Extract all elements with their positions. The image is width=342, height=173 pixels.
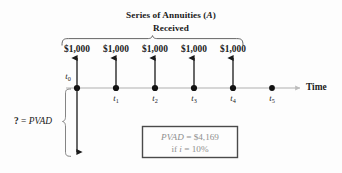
time-axis-label: Time [306, 83, 327, 92]
figure-title-suffix: ) [213, 10, 216, 20]
result-box-line-2: if i = 10% [142, 145, 238, 154]
pvad-brace [63, 89, 72, 156]
period-label-t2-sub: 2 [155, 97, 158, 104]
period-label-t3-sub: 3 [194, 97, 197, 104]
annuity-due-timeline-figure: Series of Annuities (A) Received $1,000 … [0, 0, 342, 173]
period-label-t3: t3 [191, 94, 196, 103]
cash-flow-label-t3: $1,000 [181, 45, 207, 54]
result-box-line-1: PVAD = $4,169 [142, 133, 238, 142]
period-label-t0: t0 [65, 72, 70, 81]
cash-flow-label-t0: $1,000 [64, 45, 90, 54]
cash-flow-label-t4: $1,000 [220, 45, 246, 54]
cash-flow-label-t1: $1,000 [103, 45, 129, 54]
period-label-t0-sub: 0 [68, 75, 71, 82]
period-label-t1: t1 [113, 94, 118, 103]
figure-title-line-1: Series of Annuities (A) [0, 11, 342, 20]
period-label-t5-sub: 5 [272, 97, 275, 104]
pvad-equals-sign: = [21, 116, 26, 126]
result-box-if-prefix: if [171, 144, 177, 154]
result-box-rate-value: 10% [192, 144, 209, 154]
pvad-term: PVAD [29, 116, 52, 126]
period-label-t4-sub: 4 [233, 97, 236, 104]
period-label-t5: t5 [269, 94, 274, 103]
result-box-term: PVAD [161, 132, 184, 142]
period-label-t1-sub: 1 [116, 97, 119, 104]
pvad-bracket-label: ? = PVAD [14, 117, 52, 126]
cash-flow-label-t2: $1,000 [142, 45, 168, 54]
result-box-value: $4,169 [194, 132, 219, 142]
period-dot-t5 [269, 85, 275, 91]
period-label-t4: t4 [230, 94, 235, 103]
figure-title-line-2: Received [0, 24, 342, 33]
figure-title-prefix: Series of Annuities ( [126, 10, 206, 20]
period-label-t2: t2 [152, 94, 157, 103]
cash-inflow-arrows [77, 58, 233, 88]
